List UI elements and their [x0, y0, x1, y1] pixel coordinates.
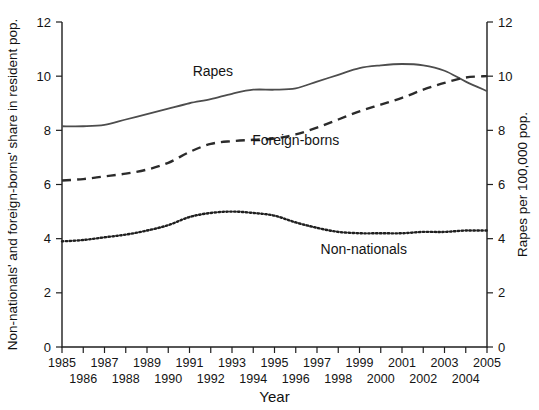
x-tick-label-even: 2004 [452, 372, 480, 386]
x-tick-label-even: 1998 [324, 372, 352, 386]
y-tick-label-left: 10 [37, 69, 51, 84]
y-tick-label-right: 4 [498, 231, 505, 246]
x-tick-label-odd: 1999 [346, 356, 374, 370]
y-tick-label-left: 6 [44, 177, 51, 192]
y-axis-title-right: Rapes per 100,000 pop. [515, 112, 530, 257]
x-tick-label-odd: 2005 [473, 356, 501, 370]
x-tick-label-even: 1986 [69, 372, 97, 386]
series-annotations: RapesForeign-bornsNon-nationals [193, 63, 407, 257]
x-tick-label-even: 2000 [367, 372, 395, 386]
x-tick-label-even: 1990 [154, 372, 182, 386]
series-label-non-nationals: Non-nationals [321, 241, 407, 257]
series-label-foreign-borns: Foreign-borns [252, 132, 339, 148]
x-tick-label-odd: 1997 [303, 356, 331, 370]
axis-frame [62, 22, 487, 347]
x-tick-label-odd: 2001 [388, 356, 416, 370]
x-tick-label-even: 1994 [239, 372, 267, 386]
y-tick-label-left: 8 [44, 123, 51, 138]
x-tick-label-odd: 1995 [261, 356, 289, 370]
x-tick-label-odd: 1991 [176, 356, 204, 370]
x-tick-label-odd: 1993 [218, 356, 246, 370]
y-tick-label-left: 12 [37, 15, 51, 30]
y-tick-label-left: 2 [44, 285, 51, 300]
x-tick-label-even: 1988 [112, 372, 140, 386]
x-tick-label-odd: 1987 [91, 356, 119, 370]
line-chart: 0246810120246810121985198619871988198919… [0, 0, 539, 410]
chart-figure: 0246810120246810121985198619871988198919… [0, 0, 539, 410]
y-tick-label-right: 10 [498, 69, 512, 84]
y-tick-label-right: 2 [498, 285, 505, 300]
y-tick-label-left: 0 [44, 340, 51, 355]
y-axis-title-left: Non-nationals' and foreign-borns' share … [5, 19, 20, 351]
y-tick-label-right: 8 [498, 123, 505, 138]
x-tick-label-even: 2002 [409, 372, 437, 386]
series-label-rapes: Rapes [193, 63, 233, 79]
y-tick-label-right: 12 [498, 15, 512, 30]
x-tick-label-odd: 2003 [431, 356, 459, 370]
x-tick-label-even: 1996 [282, 372, 310, 386]
y-tick-label-right: 6 [498, 177, 505, 192]
x-tick-label-odd: 1989 [133, 356, 161, 370]
x-tick-label-even: 1992 [197, 372, 225, 386]
series-line-rapes [62, 64, 487, 126]
data-series [62, 64, 487, 241]
x-tick-label-odd: 1985 [48, 356, 76, 370]
y-tick-label-right: 0 [498, 340, 505, 355]
y-tick-label-left: 4 [44, 231, 51, 246]
series-line-non-nationals [62, 212, 487, 242]
x-axis-title: Year [259, 388, 289, 405]
series-line-foreign-borns [62, 76, 487, 180]
